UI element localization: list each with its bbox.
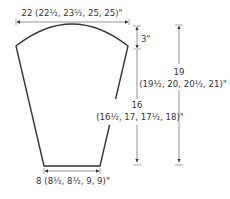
total-length-sizes: (19½, 20, 20½, 21)" xyxy=(139,79,226,89)
garment-piece-outline xyxy=(16,24,128,166)
side-length-sizes: (16½, 17, 17½, 18)" xyxy=(96,112,183,122)
bottom-width-label: 8 (8½, 8½, 9, 9)" xyxy=(36,176,110,186)
top-width-label: 22 (22½, 23½, 25, 25)" xyxy=(21,8,122,18)
total-length-value: 19 xyxy=(174,67,185,77)
schematic-diagram: 22 (22½, 23½, 25, 25)" 3" 16 (16½, 17, 1… xyxy=(0,0,230,199)
side-length-value: 16 xyxy=(132,100,143,110)
cap-depth-label: 3" xyxy=(141,34,150,44)
